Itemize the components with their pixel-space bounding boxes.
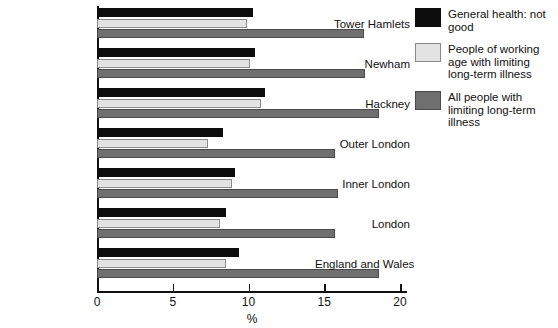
x-axis-tick [400,284,402,292]
legend-item: General health: not good [415,8,558,33]
legend-swatch-icon [415,91,441,110]
legend-label: People of working age with limiting long… [448,43,558,81]
bar [97,99,261,108]
category-label: England and Wales [315,258,410,270]
bar [97,208,226,217]
legend: General health: not goodPeople of workin… [415,8,558,139]
x-axis-tick-label: 5 [158,295,188,309]
x-axis-tick-label: 0 [82,295,112,309]
legend-label: General health: not good [448,8,558,33]
bar [97,229,335,238]
legend-swatch-icon [415,8,441,27]
x-axis-tick [97,284,99,292]
bar [97,109,379,118]
category-label: Tower Hamlets [315,18,410,30]
bar [97,219,220,228]
bar [97,189,338,198]
category-label: Hackney [315,98,410,110]
legend-item: All people with limiting long-term illne… [415,91,558,129]
bar [97,269,379,278]
bar [97,8,253,17]
bar [97,69,365,78]
x-axis-tick-label: 20 [385,295,415,309]
x-axis-tick [173,284,175,292]
x-axis-tick-label: 15 [309,295,339,309]
bar [97,179,232,188]
category-label: Outer London [315,138,410,150]
legend-swatch-icon [415,43,441,62]
legend-label: All people with limiting long-term illne… [448,91,558,129]
bar [97,19,247,28]
bar [97,149,335,158]
bar [97,168,235,177]
plot-area: 05101520 Tower HamletsNewhamHackneyOuter… [0,0,410,300]
bar [97,48,255,57]
bar [97,259,226,268]
x-axis-line [97,291,407,293]
category-label: Newham [315,58,410,70]
bar-chart: 05101520 Tower HamletsNewhamHackneyOuter… [0,0,558,328]
x-axis-title: % [97,312,407,326]
legend-item: People of working age with limiting long… [415,43,558,81]
bar [97,29,364,38]
bar [97,248,239,257]
x-axis-tick [249,284,251,292]
x-axis-tick-label: 10 [234,295,264,309]
category-label: Inner London [315,178,410,190]
bar [97,139,208,148]
bar [97,128,223,137]
bar [97,59,250,68]
x-axis-tick [324,284,326,292]
bar [97,88,265,97]
category-label: London [315,218,410,230]
